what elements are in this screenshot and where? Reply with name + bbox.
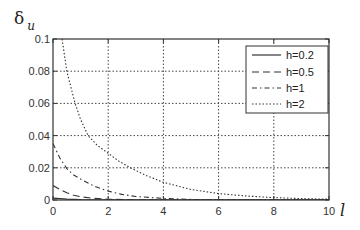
x-tick-label: 4	[160, 205, 166, 217]
x-tick-label: 6	[216, 205, 222, 217]
y-tick-label: 0.02	[29, 162, 50, 174]
y-axis-label-subscript: u	[27, 19, 35, 33]
y-tick-label: 0	[44, 194, 50, 206]
y-tick-label: 0.08	[29, 65, 50, 77]
legend-label: h=0.2	[286, 49, 314, 61]
x-axis-label: l	[340, 201, 345, 220]
y-tick-labels: 00.020.040.060.080.1	[29, 33, 50, 206]
legend-label: h=0.5	[286, 66, 314, 78]
chart: 0246810 00.020.040.060.080.1 δu l h=0.2h…	[0, 0, 360, 230]
x-tick-labels: 0246810	[50, 205, 335, 217]
series-h-1	[53, 144, 329, 200]
legend-label: h=2	[286, 98, 305, 110]
x-tick-label: 8	[271, 205, 277, 217]
legend-label: h=1	[286, 82, 305, 94]
y-tick-label: 0.1	[35, 33, 50, 45]
y-axis-label-symbol: δ	[14, 8, 24, 28]
x-tick-label: 2	[105, 205, 111, 217]
y-tick-label: 0.06	[29, 97, 50, 109]
y-tick-label: 0.04	[29, 130, 50, 142]
x-tick-label: 0	[50, 205, 56, 217]
x-tick-label: 10	[323, 205, 335, 217]
y-axis-label: δu	[14, 8, 35, 33]
legend: h=0.2h=0.5h=1h=2	[246, 46, 328, 113]
